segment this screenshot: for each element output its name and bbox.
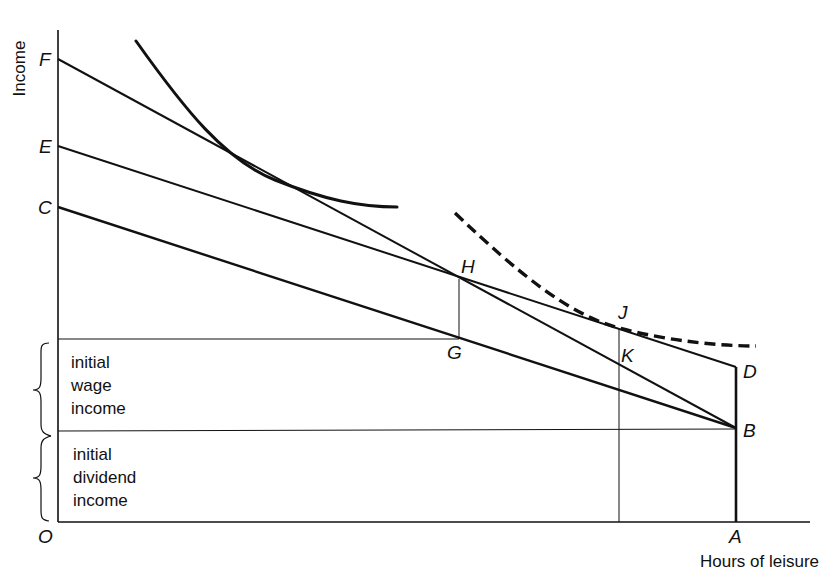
indifference-curve-dashed [455,213,756,346]
point-label-K: K [621,346,634,365]
guide-B-level [58,429,736,431]
origin-label: O [38,527,53,546]
region-dividend-line-2: dividend [73,466,136,489]
point-label-E: E [39,137,52,156]
budget-line-CB [58,207,736,428]
y-axis-label: Income [11,41,28,97]
point-label-G: G [447,343,462,362]
point-label-J: J [618,303,628,322]
point-label-F: F [39,50,51,69]
point-label-A: A [729,527,742,546]
point-label-B: B [743,421,756,440]
point-label-H: H [461,257,475,276]
region-dividend-income: initial dividend income [73,443,136,512]
point-label-D: D [743,362,757,381]
point-label-C: C [38,198,52,217]
region-dividend-line-3: income [73,489,136,512]
region-dividend-line-1: initial [73,443,136,466]
region-wage-income: initial wage income [71,351,126,420]
budget-line-ED [58,146,736,367]
budget-line-FB [58,59,736,428]
region-wage-line-1: initial [71,351,126,374]
brace-wage [33,343,51,436]
x-axis-label: Hours of leisure [700,553,819,570]
region-wage-line-2: wage [71,374,126,397]
brace-dividend [33,436,51,521]
region-wage-line-3: income [71,397,126,420]
indifference-curve-solid [136,41,397,207]
